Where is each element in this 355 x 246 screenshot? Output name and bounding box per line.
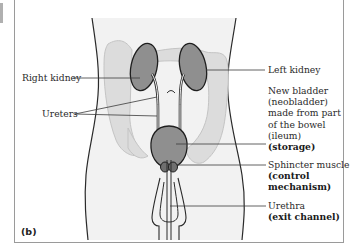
- sphincter-role-2: mechanism): [268, 181, 349, 192]
- neobladder-line-1: New bladder: [268, 85, 341, 96]
- neobladder-line-5: (ileum): [268, 130, 341, 141]
- label-left-kidney: Left kidney: [268, 64, 320, 75]
- label-urethra: Urethra (exit channel): [268, 200, 340, 222]
- urethra-name: Urethra: [268, 200, 340, 211]
- sphincter-name: Sphincter muscle: [268, 159, 349, 170]
- sphincter-right: [169, 162, 178, 172]
- label-neobladder: New bladder (neobladder) made from part …: [268, 85, 341, 152]
- neobladder: [151, 126, 187, 168]
- neobladder-line-4: of the bowel: [268, 119, 341, 130]
- neobladder-line-2: (neobladder): [268, 96, 341, 107]
- label-sphincter: Sphincter muscle (control mechanism): [268, 159, 349, 193]
- label-right-kidney: Right kidney: [22, 72, 81, 83]
- label-ureters: Ureters: [42, 108, 78, 119]
- sphincter-role-1: (control: [268, 170, 349, 181]
- neobladder-role: (storage): [268, 141, 341, 152]
- panel-label: (b): [21, 226, 36, 237]
- neobladder-line-3: made from part: [268, 107, 341, 118]
- urethra-role: (exit channel): [268, 211, 340, 222]
